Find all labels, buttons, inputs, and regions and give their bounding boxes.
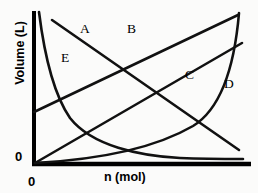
curve-label-D: D xyxy=(224,76,234,92)
curve-label-C: C xyxy=(185,67,194,83)
x-axis-zero-tick-label: 0 xyxy=(28,174,35,189)
y-axis-zero-tick-label: 0 xyxy=(15,149,22,164)
y-axis-title: Volume (L) xyxy=(13,15,27,91)
curve-A xyxy=(52,20,239,150)
curve-label-E: E xyxy=(61,50,69,66)
curve-label-A: A xyxy=(80,21,90,37)
x-axis-title: n (mol) xyxy=(104,170,146,184)
curve-E xyxy=(39,12,243,159)
chart-figure: Volume (L) n (mol) 0 0 A B C D E xyxy=(0,0,258,193)
curve-D xyxy=(35,13,239,163)
curve-label-B: B xyxy=(127,21,136,37)
